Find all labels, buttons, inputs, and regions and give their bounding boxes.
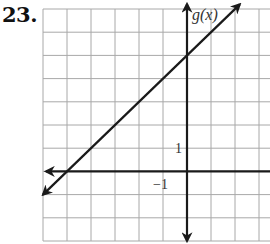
axes	[46, 4, 270, 241]
y-tick-label: 1	[175, 141, 182, 156]
function-line	[43, 4, 240, 194]
grid	[43, 9, 270, 241]
function-label: g(x)	[192, 6, 218, 24]
coordinate-plane: g(x) 1−1	[0, 0, 270, 244]
x-tick-label: −1	[153, 177, 168, 192]
function-graph	[43, 4, 240, 194]
